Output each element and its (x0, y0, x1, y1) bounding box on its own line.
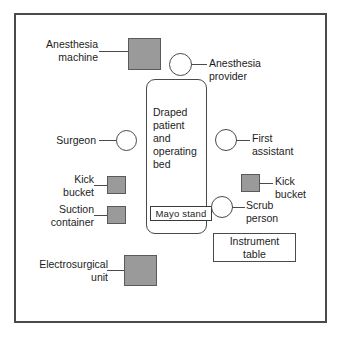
first-assistant-leader-line (236, 140, 250, 141)
surgeon-label: Surgeon (41, 134, 96, 147)
mayo-stand: Mayo stand (150, 206, 212, 221)
anesthesia-provider-label: Anesthesia provider (209, 57, 289, 82)
electrosurgical-unit-leader-line (107, 270, 125, 271)
operating-bed-label: Draped patient and operating bed (153, 106, 205, 171)
anesthesia-provider-leader-line (191, 64, 207, 65)
surgeon-circle (116, 130, 137, 151)
kick-bucket-left-box (107, 176, 126, 194)
kick-bucket-left-label: Kick bucket (40, 173, 94, 198)
suction-container-box (107, 206, 126, 224)
first-assistant-circle (215, 129, 237, 151)
mayo-stand-label: Mayo stand (155, 209, 206, 219)
scrub-person-circle (211, 196, 233, 218)
scrub-person-leader-line (232, 207, 245, 208)
first-assistant-label: First assistant (252, 132, 314, 157)
scrub-person-label: Scrub person (246, 199, 302, 224)
electrosurgical-unit-box (124, 255, 157, 286)
instrument-table-label: Instrument table (230, 235, 280, 260)
kick-bucket-right-label: Kick bucket (275, 175, 329, 200)
suction-container-label: Suction container (27, 203, 94, 228)
kick-bucket-right-leader-line (259, 183, 273, 184)
anesthesia-machine-label: Anesthesia machine (34, 38, 98, 63)
electrosurgical-unit-label: Electrosurgical unit (22, 258, 108, 283)
anesthesia-machine-leader-line (99, 51, 128, 52)
anesthesia-provider-circle (169, 53, 192, 76)
surgeon-leader-line (99, 140, 117, 141)
kick-bucket-right-box (241, 174, 260, 192)
anesthesia-machine-box (128, 38, 161, 70)
operating-room-diagram: Anesthesia machine Anesthesia provider D… (0, 0, 343, 342)
instrument-table: Instrument table (213, 233, 296, 262)
